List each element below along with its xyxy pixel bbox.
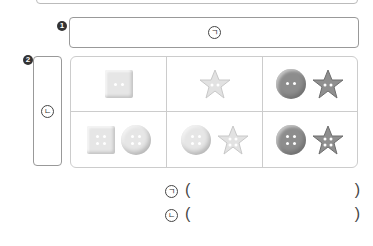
open-paren: ( <box>185 205 190 223</box>
round-button-4-holes <box>276 125 306 155</box>
mark-giyeok: ㄱ <box>208 26 221 39</box>
square-button-2-holes <box>105 70 133 98</box>
grid-cell <box>71 57 167 112</box>
grid-cell <box>167 112 263 167</box>
close-paren: ) <box>355 181 360 199</box>
mark-nieun: ㄴ <box>165 209 178 222</box>
square-button-4-holes <box>87 126 115 154</box>
star-button-2-holes <box>199 68 231 100</box>
star-button-4-holes <box>217 124 249 156</box>
question-1-number: 1 <box>57 21 67 31</box>
mark-giyeok: ㄱ <box>165 185 178 198</box>
round-button-4-holes <box>121 125 151 155</box>
star-button-2-holes <box>312 68 344 100</box>
mark-nieun: ㄴ <box>41 105 54 118</box>
grid-cell <box>263 57 357 112</box>
grid-cell <box>71 112 167 167</box>
close-paren: ) <box>355 205 360 223</box>
grid-cell <box>167 57 263 112</box>
answer-line-nieun[interactable]: ㄴ ( ) <box>165 207 360 223</box>
round-button-4-holes <box>181 125 211 155</box>
star-button-4-holes <box>312 124 344 156</box>
round-button-2-holes <box>276 69 306 99</box>
previous-box <box>36 0 358 4</box>
button-classification-grid <box>70 56 358 168</box>
open-paren: ( <box>185 181 190 199</box>
grid-cell <box>263 112 357 167</box>
question-2-number: 2 <box>23 55 33 65</box>
answer-box-1[interactable]: ㄱ <box>69 17 359 48</box>
answer-box-2[interactable]: ㄴ <box>33 56 62 166</box>
answer-line-giyeok[interactable]: ㄱ ( ) <box>165 183 360 199</box>
